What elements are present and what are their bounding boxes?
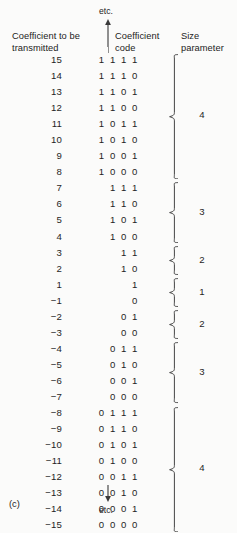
- group-brace: [168, 310, 181, 339]
- size-parameter-value: 3: [190, 206, 214, 217]
- panel-label: (c): [9, 499, 20, 509]
- size-parameter-value: 2: [190, 318, 214, 329]
- group-brace: [168, 54, 181, 179]
- bottom-continuation-label: etc.: [99, 505, 113, 515]
- header-coefficient-transmitted: Coefficient to be transmitted: [12, 31, 104, 54]
- group-brace: [168, 246, 181, 275]
- size-parameter-value: 3: [190, 366, 214, 377]
- arrow-down-icon: [101, 485, 115, 503]
- group-brace: [168, 182, 181, 243]
- size-parameter-value: 4: [190, 109, 214, 120]
- group-brace: [168, 342, 181, 403]
- group-brace: [168, 407, 181, 532]
- header-size-parameter: Size parameter: [181, 31, 237, 54]
- top-continuation-label: etc.: [99, 6, 113, 16]
- size-parameter-value: 2: [190, 254, 214, 265]
- header-divider-rule: [108, 30, 109, 53]
- header-coefficient-code: Coefficient code: [115, 31, 175, 54]
- group-brace: [168, 278, 181, 307]
- size-parameter-value: 1: [190, 286, 214, 297]
- size-parameter-value: 4: [190, 462, 214, 473]
- size-parameter-braces: 4321234: [0, 52, 237, 522]
